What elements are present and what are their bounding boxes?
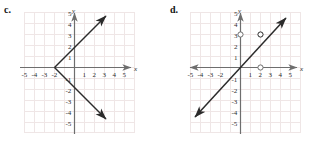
open-point-2-0-d (258, 65, 263, 70)
x-tick-1-d: 1 (249, 71, 253, 79)
panel-c-label: c. (4, 4, 11, 15)
y-tick-1-d: 1 (234, 54, 238, 62)
y-tick--2-d: -2 (232, 87, 238, 95)
x-tick-4-c: 4 (113, 71, 117, 79)
y-tick--2-c: -2 (66, 87, 72, 95)
y-tick-2-d: 2 (234, 43, 238, 51)
y-tick--5-d: -5 (232, 120, 238, 128)
x-tick--4-d: -4 (198, 71, 204, 79)
y-tick-1-c: 1 (68, 54, 72, 62)
y-tick--3-d: -3 (232, 98, 238, 106)
y-tick-3-c: 3 (68, 32, 72, 40)
panel-d: d. (166, 0, 332, 144)
x-tick--2-c: -2 (52, 71, 58, 79)
y-tick-5-d: 5 (234, 10, 238, 18)
x-tick-5-d: 5 (289, 71, 293, 79)
y-tick-4-c: 4 (68, 21, 72, 29)
panel-d-label: d. (170, 4, 178, 15)
x-tick--3-d: -3 (208, 71, 214, 79)
panel-c-svg: x y -5 -4 -3 -2 1 2 3 4 5 1 2 3 4 5 (18, 8, 140, 136)
x-tick--3-c: -3 (42, 71, 48, 79)
y-tick--3-c: -3 (66, 98, 72, 106)
y-tick--4-d: -4 (232, 109, 238, 117)
open-point-0-3-d (238, 32, 243, 37)
x-axis-label-d: x (299, 65, 304, 73)
y-tick-2-c: 2 (68, 43, 72, 51)
x-tick-1-c: 1 (83, 71, 87, 79)
x-tick-3-d: 3 (269, 71, 273, 79)
panel-c-plot: x y -5 -4 -3 -2 1 2 3 4 5 1 2 3 4 5 (18, 8, 140, 136)
panel-d-svg: x y -5 -4 -3 -2 1 2 3 4 5 1 2 3 4 5 (184, 8, 306, 136)
y-tick--5-c: -5 (66, 120, 72, 128)
open-point-2-3-d (258, 32, 263, 37)
x-tick--4-c: -4 (32, 71, 38, 79)
y-tick-4-d: 4 (234, 21, 238, 29)
x-tick-3-c: 3 (103, 71, 107, 79)
x-tick-2-d: 2 (259, 71, 263, 79)
x-tick--5-d: -5 (188, 71, 194, 79)
figure-container: c. (0, 0, 332, 144)
y-tick-5-c: 5 (68, 10, 72, 18)
x-tick--5-c: -5 (22, 71, 28, 79)
panel-c: c. (0, 0, 166, 144)
panel-d-plot: x y -5 -4 -3 -2 1 2 3 4 5 1 2 3 4 5 (184, 8, 306, 136)
x-tick-4-d: 4 (279, 71, 283, 79)
y-tick--4-c: -4 (66, 109, 72, 117)
x-tick--2-d: -2 (218, 71, 224, 79)
x-tick-2-c: 2 (93, 71, 97, 79)
y-axis-label-c: y (71, 8, 76, 15)
y-tick-3-d: 3 (234, 32, 238, 40)
x-tick-5-c: 5 (123, 71, 127, 79)
y-axis-label-d: y (237, 8, 242, 15)
x-axis-label-c: x (133, 65, 138, 73)
